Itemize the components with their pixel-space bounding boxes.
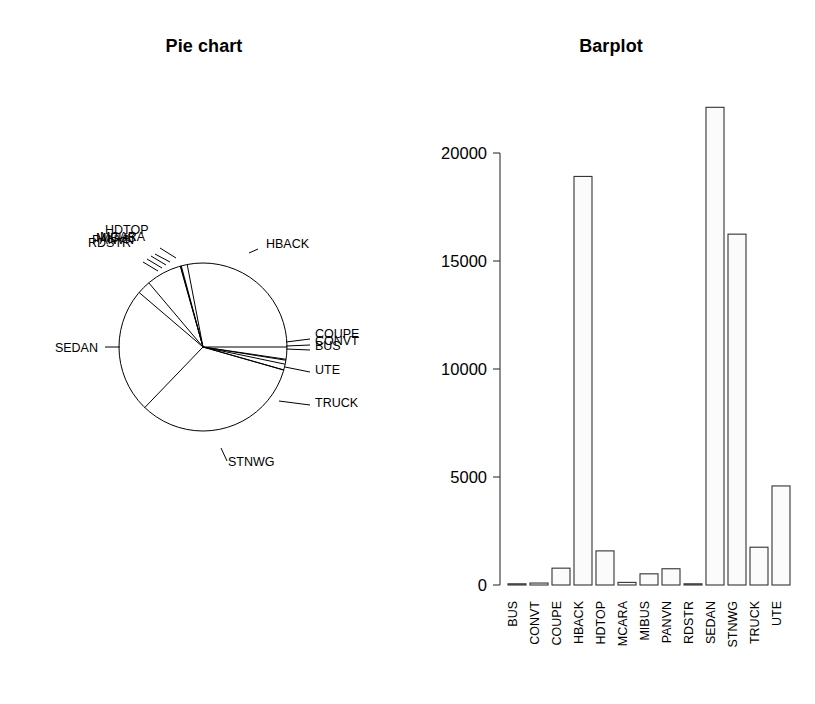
pie-label-bus: BUS (315, 339, 341, 353)
x-tick-label-coupe: COUPE (550, 601, 564, 645)
x-tick-label-panvn: PANVN (660, 601, 674, 643)
y-tick-label-10000: 10000 (441, 360, 487, 378)
x-tick-label-group: BUSCONVTCOUPEHBACKHDTOPMCARAMIBUSPANVNRD… (506, 600, 784, 647)
y-tick-label-15000: 15000 (441, 252, 487, 270)
pie-chart-title: Pie chart (0, 36, 408, 57)
y-tick-label-0: 0 (478, 576, 487, 594)
y-tick-label-20000: 20000 (441, 144, 487, 162)
pie-slice-boundary-coupe (187, 265, 203, 347)
pie-label-hdtop: HDTOP (105, 223, 149, 237)
pie-label-ute: UTE (315, 363, 340, 377)
pie-label-sedan: SEDAN (55, 341, 98, 355)
x-tick-label-hdtop: HDTOP (594, 601, 608, 645)
x-tick-label-hback: HBACK (572, 600, 586, 644)
pie-leader-bus (286, 349, 310, 350)
bar-ute (772, 486, 790, 585)
pie-leader-rdstr (143, 262, 158, 271)
pie-leader-panvn (147, 259, 162, 268)
bar-bus (508, 584, 526, 585)
x-tick-label-mibus: MIBUS (638, 601, 652, 641)
pie-label-truck: TRUCK (315, 396, 359, 410)
bar-truck (750, 547, 768, 585)
pie-leader-hback (249, 249, 258, 253)
x-tick-label-rdstr: RDSTR (682, 601, 696, 644)
pie-label-group: HBACKCOUPECONVTBUSUTETRUCKSTNWGSEDANRDST… (55, 223, 360, 469)
pie-leader-lines (105, 248, 310, 461)
bar-sedan (706, 107, 724, 585)
y-tick-label-5000: 5000 (450, 468, 487, 486)
bar-panvn (662, 569, 680, 585)
bar-hback (574, 176, 592, 585)
pie-slice-boundary-ute (180, 266, 203, 347)
pie-leader-stnwg (221, 448, 227, 461)
x-tick-label-mcara: MCARA (616, 600, 630, 646)
pie-leader-mibus (151, 256, 166, 265)
x-tick-label-bus: BUS (506, 601, 520, 627)
x-tick-label-ute: UTE (770, 601, 784, 626)
bar-mcara (618, 582, 636, 585)
bar-convt (530, 583, 548, 585)
pie-slice-boundary-stnwg (139, 292, 203, 347)
x-tick-label-convt: CONVT (528, 601, 542, 645)
bar-coupe (552, 568, 570, 585)
pie-leader-mcara (155, 254, 170, 262)
bar-hdtop (596, 551, 614, 585)
figure-canvas: Pie chart HBACKCOUPECONVTBUSUTETRUCKSTNW… (0, 0, 815, 704)
pie-label-hback: HBACK (266, 237, 310, 251)
barplot-svg: 05000100001500020000 BUSCONVTCOUPEHBACKH… (407, 0, 815, 704)
y-tick-group: 05000100001500020000 (441, 144, 500, 594)
barplot-panel: Barplot 05000100001500020000 BUSCONVTCOU… (407, 0, 815, 704)
pie-label-stnwg: STNWG (228, 455, 275, 469)
pie-leader-ute (285, 367, 310, 372)
pie-chart-svg: HBACKCOUPECONVTBUSUTETRUCKSTNWGSEDANRDST… (0, 0, 408, 704)
bar-mibus (640, 574, 658, 585)
bar-stnwg (728, 234, 746, 585)
pie-slice-boundary-mibus (203, 347, 285, 364)
pie-leader-hdtop (160, 248, 176, 258)
bar-rdstr (684, 584, 702, 585)
pie-leader-convt (286, 345, 310, 346)
pie-leader-coupe (286, 339, 310, 342)
x-tick-label-sedan: SEDAN (704, 601, 718, 644)
pie-leader-truck (279, 401, 310, 405)
pie-chart-panel: Pie chart HBACKCOUPECONVTBUSUTETRUCKSTNW… (0, 0, 408, 704)
pie-wedge-group (139, 265, 287, 408)
pie-slice-boundary-hdtop (203, 347, 286, 359)
pie-slice-boundary-sedan (145, 347, 203, 408)
barplot-title: Barplot (407, 36, 815, 57)
x-tick-label-truck: TRUCK (748, 600, 762, 644)
x-tick-label-stnwg: STNWG (726, 601, 740, 648)
bar-group (508, 107, 790, 585)
